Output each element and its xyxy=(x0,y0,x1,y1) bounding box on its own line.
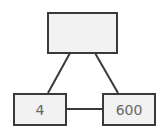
node-right-label: 600 xyxy=(116,102,143,118)
node-left-label: 4 xyxy=(36,102,45,118)
edge-top-right xyxy=(95,53,118,93)
node-right: 600 xyxy=(102,93,156,126)
edge-top-left xyxy=(48,53,70,93)
node-top xyxy=(47,12,118,54)
node-left: 4 xyxy=(13,93,67,126)
